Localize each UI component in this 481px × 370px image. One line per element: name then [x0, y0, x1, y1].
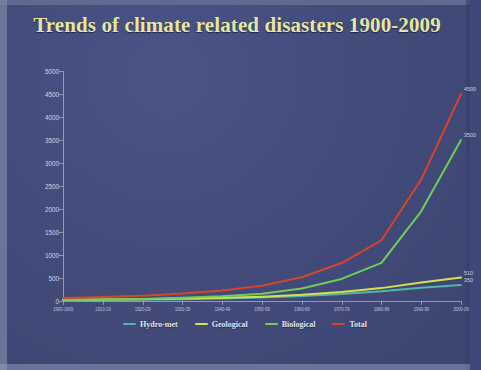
legend-item[interactable]: Hydro-met [123, 320, 178, 329]
legend-swatch-icon [265, 323, 278, 326]
photo-border-bottom [0, 364, 470, 370]
y-axis-tick-label: 1000 [19, 252, 59, 259]
x-axis-tick-label: 1950-59 [240, 307, 284, 312]
legend-label: Geological [212, 320, 248, 329]
series-end-label: 510 [464, 270, 473, 276]
series-end-label: 4500 [464, 86, 476, 92]
x-axis-tick-label: 1930-39 [160, 307, 204, 312]
photo-border-left [0, 0, 7, 370]
y-axis-tick-label: 2500 [19, 183, 59, 190]
y-axis-tick-label: 2000 [19, 206, 59, 213]
series-line [63, 285, 461, 300]
x-axis-tick-mark [342, 301, 343, 305]
x-axis-tick-mark [103, 301, 104, 305]
plot-region [63, 71, 461, 301]
x-axis-tick-label: 1990-99 [399, 307, 443, 312]
series-end-label: 3500 [464, 132, 476, 138]
legend-item[interactable]: Geological [195, 320, 248, 329]
legend-label: Total [349, 320, 367, 329]
x-axis-tick-mark [302, 301, 303, 305]
x-axis-tick-mark [421, 301, 422, 305]
slide-canvas: Trends of climate related disasters 1900… [7, 5, 466, 364]
series-line [63, 94, 461, 298]
x-axis-tick-mark [143, 301, 144, 305]
x-axis-tick-mark [182, 301, 183, 305]
x-axis-tick-label: 1900-1909 [41, 307, 85, 312]
y-axis-tick-label: 1500 [19, 229, 59, 236]
chart-title: Trends of climate related disasters 1900… [23, 13, 451, 38]
x-axis-tick-label: 1910-19 [81, 307, 125, 312]
x-axis-tick-label: 1920-29 [121, 307, 165, 312]
series-end-label: 350 [464, 277, 473, 283]
x-axis-tick-label: 1960-69 [280, 307, 324, 312]
x-axis-tick-label: 1940-49 [200, 307, 244, 312]
x-axis-tick-mark [262, 301, 263, 305]
x-axis-tick-label: 2000-09 [439, 307, 481, 312]
y-axis-tick-label: 4500 [19, 91, 59, 98]
legend-label: Hydro-met [140, 320, 178, 329]
y-axis-tick-label: 3000 [19, 160, 59, 167]
x-axis-tick-mark [461, 301, 462, 305]
legend-swatch-icon [123, 323, 136, 326]
x-axis-tick-label: 1980-89 [359, 307, 403, 312]
y-axis-tick-label: 5000 [19, 68, 59, 75]
series-lines [63, 71, 461, 301]
y-axis-tick-label: 500 [19, 275, 59, 282]
legend-item[interactable]: Biological [265, 320, 316, 329]
x-axis-tick-mark [222, 301, 223, 305]
legend-swatch-icon [195, 323, 208, 326]
chart-legend: Hydro-metGeologicalBiologicalTotal [19, 315, 471, 333]
legend-label: Biological [282, 320, 316, 329]
y-axis-tick-label: 4000 [19, 114, 59, 121]
x-axis-tick-label: 1970-79 [320, 307, 364, 312]
series-line [63, 140, 461, 300]
legend-swatch-icon [332, 323, 345, 326]
y-axis-tick-label: 0 [19, 298, 59, 305]
x-axis-tick-mark [63, 301, 64, 305]
y-axis-tick-label: 3500 [19, 137, 59, 144]
x-axis-tick-mark [381, 301, 382, 305]
legend-item[interactable]: Total [332, 320, 367, 329]
chart-area: 0500100015002000250030003500400045005000… [19, 67, 471, 313]
